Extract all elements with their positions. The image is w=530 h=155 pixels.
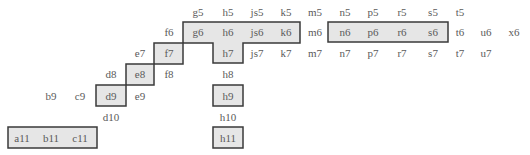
cell-p6: p6: [358, 26, 388, 38]
cell-h9: h9: [213, 90, 243, 102]
cell-e8: e8: [125, 68, 155, 80]
cell-f8: f8: [154, 68, 184, 80]
cell-m7: m7: [300, 47, 330, 59]
cell-p7: p7: [358, 47, 388, 59]
cell-h8: h8: [213, 68, 243, 80]
cell-h7: h7: [213, 47, 243, 59]
cell-js6: js6: [242, 26, 272, 38]
cell-d10: d10: [96, 111, 126, 123]
cell-e9: e9: [125, 90, 155, 102]
cell-c9: c9: [65, 90, 95, 102]
cell-e7: e7: [125, 47, 155, 59]
cell-u7: u7: [471, 47, 501, 59]
cell-k7: k7: [271, 47, 301, 59]
cell-t5: t5: [445, 6, 475, 18]
cell-r6: r6: [387, 26, 417, 38]
cell-u6: u6: [471, 26, 501, 38]
cell-h5: h5: [213, 6, 243, 18]
cell-a11: a11: [7, 132, 37, 144]
cell-s5: s5: [418, 6, 448, 18]
cell-h10: h10: [213, 111, 243, 123]
cell-h11: h11: [213, 132, 243, 144]
cell-r5: r5: [387, 6, 417, 18]
cell-r7: r7: [387, 47, 417, 59]
cell-d9: d9: [96, 90, 126, 102]
cell-f6: f6: [154, 26, 184, 38]
cell-n6: n6: [330, 26, 360, 38]
cell-m5: m5: [300, 6, 330, 18]
cell-f7: f7: [154, 47, 184, 59]
cell-b11: b11: [36, 132, 66, 144]
cell-m6: m6: [300, 26, 330, 38]
cell-b9: b9: [36, 90, 66, 102]
cell-js5: js5: [242, 6, 272, 18]
cell-k5: k5: [271, 6, 301, 18]
cell-k6: k6: [271, 26, 301, 38]
square-grid-diagram: g5 h5 js5 k5 m5 n5 p5 r5 s5 t5 f6 g6 h6 …: [0, 0, 530, 155]
cell-n7: n7: [330, 47, 360, 59]
cell-p5: p5: [358, 6, 388, 18]
cell-d8: d8: [96, 68, 126, 80]
cell-js7: js7: [242, 47, 272, 59]
cell-h6: h6: [213, 26, 243, 38]
cell-g6: g6: [183, 26, 213, 38]
cell-s6: s6: [418, 26, 448, 38]
cell-s7: s7: [418, 47, 448, 59]
cell-n5: n5: [330, 6, 360, 18]
cell-c11: c11: [65, 132, 95, 144]
cell-x6: x6: [499, 26, 529, 38]
cell-g5: g5: [183, 6, 213, 18]
